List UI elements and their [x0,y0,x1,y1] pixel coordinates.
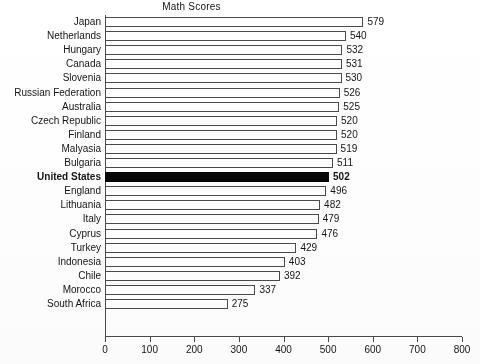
bar-row: United States502 [105,170,462,184]
bar-category-label: Australia [62,100,101,114]
bar-row: Malyasia519 [105,142,462,156]
bar [105,186,326,196]
bar-value-label: 540 [350,29,367,43]
bar-category-label: United States [37,170,101,184]
bar-row: Cyprus476 [105,227,462,241]
bar-value-label: 429 [300,241,317,255]
bar-row: Czech Republic520 [105,114,462,128]
bar-value-label: 511 [337,156,353,170]
bar-row: Indonesia403 [105,255,462,269]
bar-value-label: 519 [341,142,358,156]
bar-row: Turkey429 [105,241,462,255]
math-scores-bar-chart: Math Scores 0100200300400500600700800 Ja… [0,0,480,364]
x-axis-tick [284,337,285,342]
bar-category-label: Czech Republic [31,114,101,128]
bar [105,130,337,140]
bar-category-label: Malyasia [62,142,101,156]
bar-category-label: England [64,184,101,198]
x-axis-tick-label: 700 [409,344,426,356]
x-axis-tick [328,337,329,342]
bar [105,158,333,168]
bar-category-label: Italy [83,212,101,226]
bar [105,214,319,224]
bar [105,88,340,98]
bar [105,59,342,69]
bar-value-label: 392 [284,269,301,283]
bar-value-label: 275 [232,297,249,311]
bar-row: Netherlands540 [105,29,462,43]
bar-value-label: 479 [323,212,340,226]
x-axis-tick [462,337,463,342]
bar-category-label: Bulgaria [64,156,101,170]
bar [105,17,363,27]
bar-value-label: 496 [330,184,347,198]
bar [105,116,337,126]
x-axis-tick-label: 0 [102,344,108,356]
bar [105,144,337,154]
bar-value-label: 526 [344,86,361,100]
x-axis-tick [150,337,151,342]
bar-row: Slovenia530 [105,71,462,85]
bar [105,172,329,182]
bar-category-label: Japan [74,15,101,29]
x-axis-tick-label: 300 [231,344,248,356]
bar [105,31,346,41]
bar-category-label: Netherlands [47,29,101,43]
x-axis-tick [105,337,106,342]
bar-value-label: 579 [367,15,384,29]
bar-row: Lithuania482 [105,198,462,212]
x-axis-tick-label: 500 [320,344,337,356]
bar-category-label: Lithuania [60,198,101,212]
bar [105,102,339,112]
bar-category-label: Cyprus [69,227,101,241]
bar-value-label: 520 [341,114,358,128]
bar-category-label: Indonesia [58,255,101,269]
bar [105,229,317,239]
bar-row: Canada531 [105,57,462,71]
bar [105,299,228,309]
bar-value-label: 520 [341,128,358,142]
bar-value-label: 532 [346,43,363,57]
bar-row: Japan579 [105,15,462,29]
bar-value-label: 337 [259,283,276,297]
x-axis-tick [373,337,374,342]
bar-category-label: Russian Federation [14,86,101,100]
bar-category-label: Chile [78,269,101,283]
x-axis-tick-label: 100 [141,344,158,356]
bar-row: Hungary532 [105,43,462,57]
bar-category-label: Finland [68,128,101,142]
bar-category-label: Morocco [63,283,101,297]
bar-row: England496 [105,184,462,198]
bar-category-label: South Africa [47,297,101,311]
bar [105,200,320,210]
bar-value-label: 531 [346,57,363,71]
chart-title: Math Scores [0,1,480,13]
bar-row: Bulgaria511 [105,156,462,170]
bar-category-label: Canada [66,57,101,71]
bar-row: Russian Federation526 [105,86,462,100]
bar-value-label: 476 [321,227,338,241]
bar-value-label: 403 [289,255,306,269]
bar [105,73,342,83]
bar-category-label: Turkey [71,241,101,255]
bar [105,45,342,55]
bar-row: South Africa275 [105,297,462,311]
x-axis-tick-label: 800 [454,344,471,356]
bar-value-label: 525 [343,100,360,114]
x-axis-tick [194,337,195,342]
plot-area: 0100200300400500600700800 Japan579Nether… [105,15,462,337]
bar-row: Finland520 [105,128,462,142]
bar-row: Morocco337 [105,283,462,297]
bar [105,285,255,295]
bar-category-label: Slovenia [63,71,101,85]
bar-value-label: 502 [333,170,350,184]
x-axis-tick [417,337,418,342]
bar [105,271,280,281]
bar-row: Italy479 [105,212,462,226]
bar-row: Chile392 [105,269,462,283]
x-axis-tick [239,337,240,342]
bar [105,243,296,253]
x-axis-tick-label: 400 [275,344,292,356]
bar [105,257,285,267]
x-axis-tick-label: 600 [364,344,381,356]
